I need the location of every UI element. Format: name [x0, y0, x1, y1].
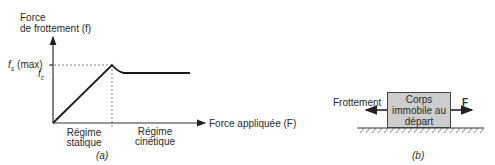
friction-curve [53, 65, 190, 123]
x-axis-label: Force appliquée (F) [209, 118, 296, 129]
fc-subscript: c [41, 74, 45, 81]
y-axis-label-line1: Force [20, 12, 46, 23]
body-block: Corps immobile au départ [387, 92, 451, 128]
applied-force-label: F [462, 97, 468, 108]
body-text: Corps immobile au départ [388, 94, 450, 127]
region-static-line2: statique [62, 137, 106, 148]
y-axis-label-line2: de frottement (f) [20, 23, 91, 34]
tick-label-fc: fc [38, 68, 44, 83]
caption-a: (a) [96, 150, 108, 161]
friction-label: Frottement [333, 97, 381, 108]
caption-b: (b) [412, 150, 424, 161]
region-kinetic-line2: cinétique [130, 136, 180, 147]
ground-hatch [360, 128, 484, 133]
